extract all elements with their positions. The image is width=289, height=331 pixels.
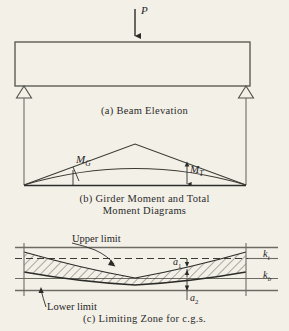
label-mg-sub: G [85,159,90,168]
support-right [239,86,254,185]
figure-container: P (a) Beam Elevation MG MT (b) Girder Mo… [0,0,289,331]
panel-a-beam-elevation [15,9,254,185]
label-kt: kt [263,248,270,262]
label-a1-sub: 1 [178,262,181,269]
limiting-zone-hatched [24,252,246,285]
label-mg-main: M [76,153,85,165]
panel-b-moment-diagrams [24,144,246,186]
caption-b-text2: Moment Diagrams [103,205,187,216]
caption-panel-c: (c) Limiting Zone for c.g.s. [0,313,289,324]
label-mt-main: M [190,163,199,175]
a2-dimension-arrow [185,279,189,300]
mg-leader [73,167,79,185]
label-girder-moment: MG [76,153,91,168]
load-label-p: P [141,4,148,16]
beam-rectangle [15,42,250,86]
girder-moment-parabola [24,169,246,186]
label-mt-sub: T [199,169,203,178]
label-kb-sub: b [268,275,272,283]
label-upper-limit: Upper limit [72,233,121,244]
label-a2: a2 [190,292,198,305]
upper-limit-leader [72,243,116,267]
caption-a-text: (a) Beam Elevation [101,105,188,116]
support-left [17,86,32,185]
label-a1: a1 [173,256,181,269]
figure-drawing [0,0,289,331]
label-total-moment: MT [190,163,203,178]
caption-panel-a: (a) Beam Elevation [0,105,289,116]
label-a2-sub: 2 [195,298,198,305]
caption-panel-b-line1: (b) Girder Moment and Total [0,193,289,204]
total-moment-triangle [24,144,246,185]
caption-c-text: (c) Limiting Zone for c.g.s. [83,313,206,324]
caption-b-text1: (b) Girder Moment and Total [79,193,209,204]
caption-panel-b-line2: Moment Diagrams [0,205,289,216]
panel-c-limiting-zone [15,243,278,307]
label-lower-limit: Lower limit [47,301,97,312]
label-kt-sub: t [268,254,270,262]
label-kb: kb [263,269,271,283]
